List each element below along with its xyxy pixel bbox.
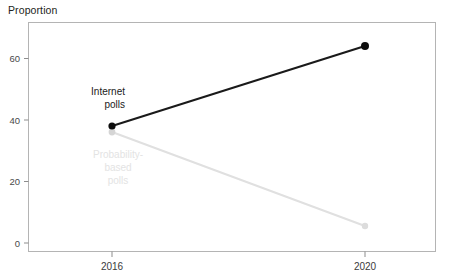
x-tick-label-2020: 2020	[354, 261, 377, 272]
annotation-probability-line-3: polls	[108, 175, 129, 186]
y-tick-label-0: 0	[15, 238, 20, 249]
series-internet-polls	[108, 42, 369, 130]
data-point-internet-2016	[108, 122, 115, 129]
x-tick-label-2016: 2016	[101, 261, 124, 272]
annotation-internet-line-1: Internet	[91, 86, 125, 97]
y-tick-label-20: 20	[9, 176, 20, 187]
y-axis-ticks	[24, 59, 29, 244]
data-point-internet-2020	[361, 42, 369, 50]
data-point-probability-2016	[109, 129, 116, 136]
plot-frame	[29, 23, 436, 252]
y-tick-label-60: 60	[9, 53, 20, 64]
series-probability-based-polls	[109, 129, 369, 230]
series-line-probability	[112, 132, 365, 226]
annotation-probability-line-1: Probability-	[93, 149, 143, 160]
annotation-probability-line-2: based	[104, 162, 131, 173]
data-point-probability-2020	[362, 223, 368, 229]
y-tick-label-40: 40	[9, 115, 20, 126]
annotation-internet-polls: Internet polls	[91, 86, 125, 110]
slopegraph-chart: Proportion 60 40 20 0 2016 2020	[0, 0, 453, 279]
plot-area: 60 40 20 0 2016 2020 Internet polls	[0, 0, 453, 279]
series-line-internet	[112, 46, 365, 126]
annotation-probability-based-polls: Probability- based polls	[93, 149, 143, 186]
x-axis-ticks	[112, 252, 365, 258]
annotation-internet-line-2: polls	[104, 99, 125, 110]
